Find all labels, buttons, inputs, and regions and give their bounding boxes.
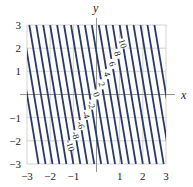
y-tick-label: −3 (9, 158, 21, 170)
x-axis-label: x (180, 88, 187, 102)
y-axis-label: y (92, 1, 99, 15)
y-tick-label: 3 (16, 19, 22, 31)
x-tick-label: 1 (117, 170, 123, 182)
x-tick-label: 2 (140, 170, 146, 182)
y-tick-label: 2 (16, 42, 22, 54)
contour-plot: −3−2−1123321−1−2−3 x y -10-8-6-4-2024681… (0, 0, 193, 187)
x-tick-label: −3 (21, 170, 33, 182)
x-tick-label: −2 (44, 170, 56, 182)
x-tick-label: 3 (163, 170, 169, 182)
y-tick-label: −1 (9, 112, 21, 124)
y-tick-label: 1 (16, 65, 22, 77)
x-tick-label: −1 (67, 170, 79, 182)
y-tick-label: −2 (9, 135, 21, 147)
